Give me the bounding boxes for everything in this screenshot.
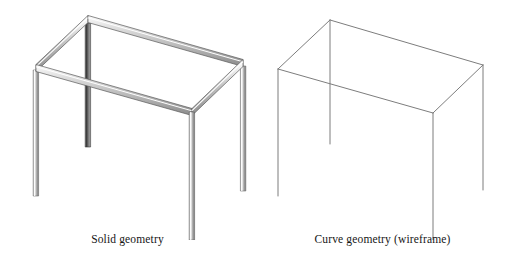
solid-beam-front-left	[36, 65, 192, 116]
panel-curve-geometry: Curve geometry (wireframe)	[255, 0, 510, 266]
solid-geometry-drawing	[0, 0, 255, 240]
curve-beam-front-left	[278, 69, 433, 113]
panel-solid-geometry: Solid geometry	[0, 0, 255, 266]
caption-curve-geometry: Curve geometry (wireframe)	[255, 232, 510, 246]
curve-geometry-drawing	[255, 0, 510, 240]
solid-leg-front	[189, 112, 194, 240]
figure-root: Solid geometry Curve geometry (wireframe…	[0, 0, 510, 266]
solid-leg-right	[240, 66, 245, 191]
curve-beam-front-right	[433, 65, 483, 113]
curve-beam-back-right	[330, 20, 483, 65]
solid-beam-back-left	[36, 16, 88, 72]
caption-solid-geometry: Solid geometry	[0, 232, 255, 246]
curve-beam-back-left	[278, 20, 330, 69]
solid-beam-back-right	[88, 16, 243, 67]
solid-leg-left	[33, 70, 38, 196]
solid-beam-front-right	[192, 60, 243, 116]
